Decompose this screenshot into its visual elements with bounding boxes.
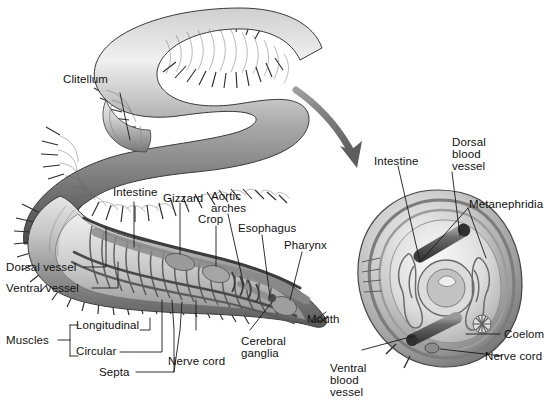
label-nerve-cord-left: Nerve cord bbox=[168, 355, 225, 368]
label-crop: Crop bbox=[198, 213, 223, 226]
label-circular: Circular bbox=[76, 345, 116, 358]
label-ventral-vessel: Ventral vessel bbox=[6, 282, 79, 295]
cross-section-panel bbox=[358, 190, 522, 368]
nephrostome-funnel bbox=[473, 315, 491, 333]
label-dorsal-blood-vessel-line1: Dorsal bbox=[452, 136, 486, 149]
label-muscles: Muscles bbox=[6, 334, 49, 347]
label-clitellum: Clitellum bbox=[63, 73, 108, 86]
label-longitudinal: Longitudinal bbox=[76, 319, 139, 332]
label-septa: Septa bbox=[99, 366, 130, 379]
label-metanephridia: Metanephridia bbox=[469, 198, 543, 211]
label-cerebral-ganglia-line2: ganglia bbox=[241, 347, 279, 360]
label-dorsal-vessel: Dorsal vessel bbox=[6, 261, 76, 274]
label-pharynx: Pharynx bbox=[284, 239, 327, 252]
label-ventral-blood-vessel-line1: Ventral bbox=[330, 362, 367, 375]
label-ventral-blood-vessel-line3: vessel bbox=[330, 386, 363, 399]
label-esophagus: Esophagus bbox=[238, 222, 296, 235]
label-dorsal-blood-vessel-line3: vessel bbox=[452, 160, 485, 173]
earthworm-anatomy-figure: Clitellum Intestine Gizzard Aortic arche… bbox=[0, 0, 554, 412]
label-ventral-blood-vessel-line2: blood bbox=[330, 374, 359, 387]
label-gizzard: Gizzard bbox=[163, 192, 203, 205]
label-aortic-arches-line1: Aortic bbox=[211, 190, 241, 203]
cross-section-nerve-cord bbox=[425, 343, 439, 353]
cerebral-ganglia-organ bbox=[268, 294, 276, 302]
label-coelom: Coelom bbox=[504, 328, 544, 341]
label-intestine-left: Intestine bbox=[113, 186, 157, 199]
label-nerve-cord-right: Nerve cord bbox=[485, 350, 542, 363]
label-intestine-right: Intestine bbox=[374, 155, 418, 168]
label-mouth: Mouth bbox=[307, 313, 339, 326]
label-cerebral-ganglia-line1: Cerebral bbox=[241, 335, 286, 348]
label-dorsal-blood-vessel-line2: blood bbox=[452, 148, 481, 161]
